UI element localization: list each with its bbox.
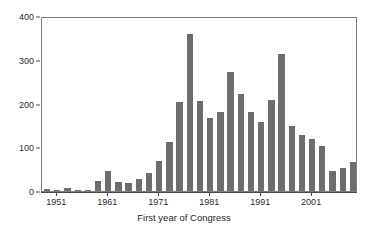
bars-layer xyxy=(42,18,356,191)
bar xyxy=(95,181,101,192)
bar xyxy=(278,54,284,191)
bar xyxy=(289,126,295,191)
x-axis-tick-label: 2001 xyxy=(301,198,321,207)
bar xyxy=(75,190,81,192)
y-axis-tick-mark xyxy=(36,192,40,193)
y-axis-tick-label: 400 xyxy=(19,13,34,22)
y-axis-tick-mark xyxy=(36,148,40,149)
y-axis-tick-label: 200 xyxy=(19,100,34,109)
x-axis-tick-mark xyxy=(209,192,210,196)
bar xyxy=(146,173,152,191)
x-axis-tick-label: 1961 xyxy=(97,198,117,207)
y-axis-tick-mark xyxy=(36,17,40,18)
x-axis-tick-label: 1991 xyxy=(250,198,270,207)
bar xyxy=(64,188,70,191)
bar xyxy=(176,102,182,191)
y-axis-tick-label: 100 xyxy=(19,144,34,153)
bar xyxy=(309,139,315,191)
x-axis-tick-mark xyxy=(158,192,159,196)
bar xyxy=(54,190,60,192)
bar xyxy=(105,171,111,191)
y-axis-tick-label: 0 xyxy=(29,188,34,197)
x-axis-tick-mark xyxy=(311,192,312,196)
bar xyxy=(299,135,305,191)
bar xyxy=(136,179,142,191)
bar xyxy=(350,162,356,191)
x-axis-tick-labels: 195119611971198119912001 xyxy=(41,198,357,212)
bar xyxy=(258,122,264,191)
y-axis-tick-mark xyxy=(36,60,40,61)
x-axis-title: First year of Congress xyxy=(0,213,368,223)
bar xyxy=(156,161,162,191)
bar xyxy=(197,101,203,191)
bar-chart-figure: 0100200300400 195119611971198119912001 F… xyxy=(0,0,368,246)
bar xyxy=(238,94,244,191)
x-axis-tick-label: 1951 xyxy=(46,198,66,207)
bar xyxy=(85,190,91,192)
y-axis-tick-labels: 0100200300400 xyxy=(6,0,34,246)
bar xyxy=(187,34,193,192)
x-axis-tick-mark xyxy=(260,192,261,196)
y-axis-tick-mark xyxy=(36,104,40,105)
bar xyxy=(44,189,50,191)
bar xyxy=(319,146,325,192)
bar xyxy=(268,100,274,191)
bar xyxy=(166,142,172,191)
bar xyxy=(125,183,131,191)
plot-area-frame xyxy=(41,17,357,192)
x-axis-tick-label: 1981 xyxy=(199,198,219,207)
bar xyxy=(248,112,254,191)
bar xyxy=(227,72,233,191)
y-axis-tick-label: 300 xyxy=(19,56,34,65)
x-axis-tick-label: 1971 xyxy=(148,198,168,207)
bar xyxy=(115,182,121,191)
x-axis-tick-mark xyxy=(107,192,108,196)
x-axis-tick-mark xyxy=(56,192,57,196)
bar xyxy=(329,171,335,191)
bar xyxy=(217,112,223,191)
bar xyxy=(340,168,346,191)
bar xyxy=(207,118,213,191)
